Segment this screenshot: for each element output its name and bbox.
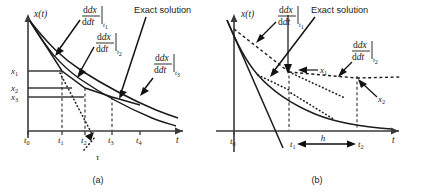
x-axis-arrowhead (175, 128, 183, 135)
panel-b-x-tick-labels: t0 t1 t2 (230, 131, 364, 150)
svg-text:t1: t1 (58, 135, 64, 146)
panel-b-deriv2-arrowhead (338, 68, 347, 77)
panel-a-deriv3-den-t: dt (159, 65, 167, 75)
x-axis-arrowhead (391, 128, 399, 135)
panel-b-axes (216, 14, 399, 152)
svg-text:ddt: ddt (96, 44, 109, 54)
panel-b-x-axis-label: t (392, 135, 395, 145)
panel-a-y-axis-label: x(t) (33, 9, 47, 20)
h-arrow-left (297, 141, 306, 148)
svg-text:x1: x1 (319, 65, 327, 76)
panel-a-drop-lines (62, 71, 112, 130)
panel-b-x1-sub: 1 (324, 69, 327, 76)
svg-text:t2: t2 (358, 139, 364, 150)
panel-a-y-levels: x1 x2 x3 (10, 66, 84, 103)
panel-a-deriv3-num-x: dx (160, 53, 170, 63)
svg-text:t1: t1 (290, 139, 296, 150)
svg-text:t2: t2 (81, 135, 87, 146)
panel-a-deriv1-sub: t1 (103, 21, 108, 30)
panel-b-xtick-0-sub: 0 (233, 140, 236, 147)
svg-text:x2: x2 (377, 94, 385, 105)
panel-b-x2-label: x2 (358, 79, 385, 105)
panel-a-deriv3-arrowhead (140, 87, 149, 96)
svg-text:x1: x1 (10, 66, 18, 77)
panel-b-euler-segment-3 (357, 77, 401, 78)
panel-b-dotted-slope-1 (258, 75, 289, 90)
panel-b-exact-solution-text: Exact solution (311, 5, 368, 15)
y-axis-arrowhead (231, 14, 238, 22)
svg-text:ddx: ddx (353, 40, 368, 50)
svg-text:ddx: ddx (155, 53, 170, 63)
panel-a-exact-solution-text: Exact solution (134, 5, 191, 15)
panel-b-deriv2-sub: t2 (373, 56, 378, 65)
svg-text:ddx: ddx (97, 32, 112, 42)
panel-a-ytick-1-sub: 2 (15, 87, 18, 94)
panel-a-ytick-0-sub: 1 (15, 70, 18, 77)
panel-a-exact-arrowhead (119, 90, 127, 99)
panel-b-deriv2-den-t: dt (357, 52, 365, 62)
panel-b-tangent-at-t0 (227, 20, 283, 148)
panel-a-xtick-1-sub: 1 (61, 139, 64, 146)
panel-b-drop-lines (289, 70, 357, 130)
svg-text:t4: t4 (136, 135, 142, 146)
svg-text:ddx: ddx (83, 5, 98, 15)
panel-b-x1-arrowhead (298, 67, 307, 74)
panel-b-derivative-label-2: ddx ddt t2 (338, 40, 378, 77)
panel-a-deriv2-den-t: dt (101, 44, 109, 54)
panel-a-xtick-0-sub: 0 (27, 139, 30, 146)
panel-b-xtick-2-sub: 2 (361, 143, 364, 150)
svg-text:ddt: ddt (154, 65, 167, 75)
panel-b-x2-sub: 2 (382, 98, 385, 105)
panel-b-deriv2-num-x: dx (358, 40, 368, 50)
panel-b-deriv1-sub: t1 (299, 21, 304, 30)
panel-b-deriv1-num-x: dx (284, 5, 294, 15)
panel-b-deriv1-den-t: dt (283, 17, 291, 27)
panel-a-exact-solution-label: Exact solution (119, 5, 191, 99)
panel-b-deriv1-arrowhead (256, 34, 265, 43)
panel-b-step-label: h (321, 133, 326, 143)
panel-a-deriv3-sub: t3 (175, 69, 180, 78)
panel-b-xtick-1-sub: 1 (293, 143, 296, 150)
panel-a-xtick-3-sub: 3 (111, 139, 114, 146)
panel-a: x1 x2 x3 x(t) t (0, 0, 211, 193)
panel-a-derivative-label-3: ddx ddt t3 (140, 53, 180, 96)
h-arrow-right (347, 141, 356, 148)
panel-a-xtick-4-sub: 4 (139, 139, 142, 146)
panel-a-deriv1-num-x: dx (88, 5, 98, 15)
panel-a-derivative-label-2: ddx ddt t2 (77, 32, 122, 78)
panel-a-x-axis-label: t (176, 135, 179, 145)
panel-b: x(t) t t0 t1 (211, 0, 423, 193)
panel-a-xtick-2-sub: 2 (84, 139, 87, 146)
panel-b-exact-arrowhead (270, 68, 279, 77)
panel-a-ytick-2-sub: 3 (15, 96, 18, 103)
panel-b-y-axis-label: x(t) (240, 9, 254, 20)
panel-a-deriv2-num-x: dx (102, 32, 112, 42)
panel-a-caption: (a) (93, 175, 104, 185)
svg-text:t3: t3 (108, 135, 114, 146)
svg-text:ddt: ddt (352, 52, 365, 62)
panel-a-deriv1-den-t: dt (87, 17, 95, 27)
panel-a-tau-label: τ (96, 152, 100, 162)
svg-text:ddx: ddx (279, 5, 294, 15)
figure-root: x1 x2 x3 x(t) t (0, 0, 423, 193)
panel-b-caption: (b) (312, 175, 323, 185)
panel-a-x-tick-labels: t0 t1 t2 t3 t4 (24, 135, 142, 146)
svg-text:ddt: ddt (82, 17, 95, 27)
panel-b-step-measure: h (297, 133, 356, 148)
panel-a-deriv2-sub: t2 (117, 48, 122, 57)
svg-text:ddt: ddt (278, 17, 291, 27)
